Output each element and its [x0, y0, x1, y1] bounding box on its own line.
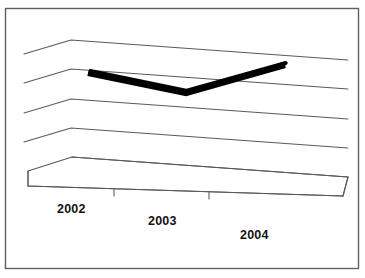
chart-canvas	[0, 0, 365, 278]
chart-figure: 2002 2003 2004	[0, 0, 365, 278]
axis-label-2003: 2003	[148, 215, 177, 228]
axis-label-2002: 2002	[57, 203, 86, 216]
axis-label-2004: 2004	[240, 229, 269, 242]
